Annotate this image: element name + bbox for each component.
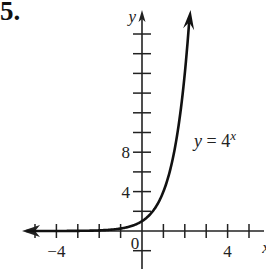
origin-label: 0 [131,234,140,253]
curve-4-to-the-x [26,10,194,231]
x-axis-label: x [261,238,266,257]
y-axis-label: y [126,7,136,26]
x-tick-label: 4 [223,242,232,261]
function-label: y = 4x [192,128,236,151]
y-tick-label: 4 [122,183,131,202]
exponential-graph: −40448yxy = 4x [0,0,266,269]
x-tick-label: −4 [47,242,66,261]
function-curve [26,22,189,231]
y-tick-label: 8 [122,143,131,162]
axis-labels: −40448yxy = 4x [47,7,266,261]
